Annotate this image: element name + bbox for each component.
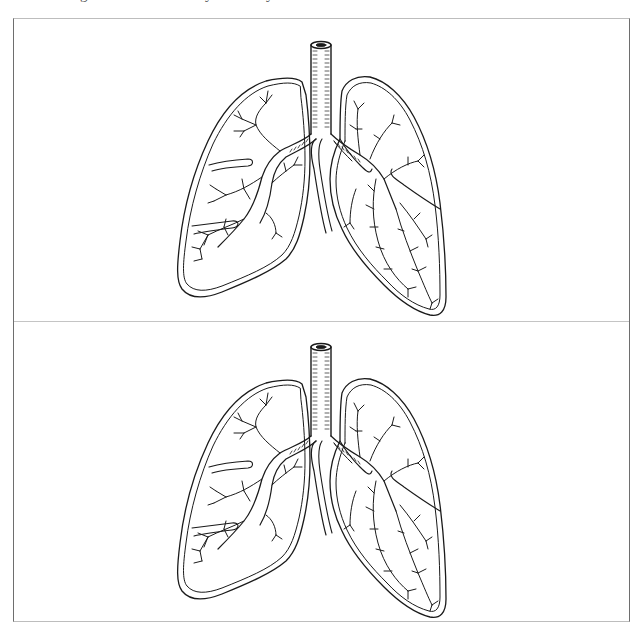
clipped-glyph: y <box>205 0 213 3</box>
clipped-glyph: g <box>80 0 88 3</box>
lungs-icon <box>14 19 629 321</box>
panel-bottom <box>14 321 629 623</box>
clipped-header-text: g y y <box>0 0 635 4</box>
lungs-illustration-bottom <box>14 321 629 623</box>
diagram-frame <box>13 18 630 622</box>
lungs-icon <box>14 321 629 623</box>
clipped-glyph: y <box>266 0 274 3</box>
lungs-illustration-top <box>14 19 629 321</box>
panel-top <box>14 19 629 322</box>
